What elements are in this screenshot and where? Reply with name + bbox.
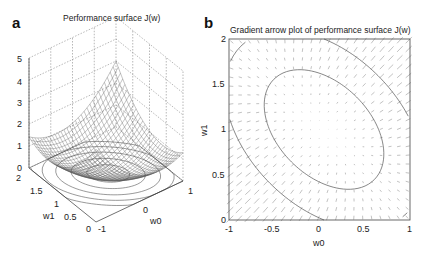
- gradient-arrow: [227, 190, 233, 195]
- gradient-arrow: [354, 120, 356, 121]
- gradient-arrow: [309, 198, 311, 202]
- gradient-arrow: [328, 111, 329, 112]
- gradient-arrow: [264, 164, 268, 167]
- gradient-arrow: [264, 181, 268, 185]
- gradient-arrow: [320, 57, 321, 61]
- gradient-arrow: [284, 94, 285, 95]
- gradient-arrow: [291, 190, 294, 194]
- gradient-arrow: [380, 92, 384, 95]
- gradient-arrow: [345, 207, 346, 211]
- gradient-arrow: [397, 146, 401, 147]
- gradient-arrow: [245, 216, 251, 222]
- gradient-arrow: [308, 207, 310, 211]
- gradient-arrow: [371, 128, 374, 129]
- gradient-arrow: [300, 198, 303, 202]
- gradient-arrow: [328, 164, 329, 166]
- gradient-arrow: [255, 155, 259, 158]
- gradient-arrow: [227, 207, 234, 213]
- gradient-arrow: [363, 173, 364, 174]
- gradient-arrow: [388, 46, 393, 52]
- gradient-arrow: [363, 190, 364, 192]
- gradient-arrow: [388, 92, 392, 95]
- gradient-arrow: [319, 164, 320, 166]
- gradient-arrow: [266, 94, 268, 95]
- gradient-arrow: [276, 49, 277, 52]
- surface-mesh: [29, 61, 183, 181]
- gradient-arrow: [337, 57, 339, 61]
- gradient-arrow: [380, 74, 384, 78]
- mesh-line: [31, 67, 118, 142]
- gradient-arrow: [371, 74, 375, 78]
- gradient-arrow: [290, 207, 293, 212]
- gradient-arrow: [266, 76, 268, 78]
- gradient-arrow: [309, 181, 311, 184]
- gradient-arrow: [310, 147, 311, 148]
- gradient-arrow: [354, 83, 357, 86]
- gradient-arrow: [380, 216, 381, 219]
- gradient-arrow: [236, 190, 242, 195]
- gradient-arrow: [406, 207, 409, 209]
- gradient-arrow: [246, 164, 251, 167]
- gradient-arrow: [276, 40, 277, 44]
- gradient-arrow: [371, 83, 374, 86]
- gradient-arrow: [254, 198, 259, 203]
- gradient-arrow: [292, 147, 294, 149]
- gradient-arrow: [318, 207, 320, 211]
- gradient-arrow: [406, 146, 410, 147]
- gradient-arrow: [256, 121, 259, 122]
- gradient-arrow: [282, 181, 285, 185]
- gradient-arrow: [337, 84, 339, 87]
- gradient-arrow: [388, 207, 390, 210]
- gradient-arrow: [311, 57, 312, 60]
- gradient-arrow: [311, 48, 312, 52]
- floor-contours: [30, 141, 183, 205]
- gradient-arrow: [257, 67, 259, 69]
- gradient-arrow: [300, 164, 302, 166]
- panel-a-label: a: [12, 14, 21, 31]
- gradient-arrow: [227, 216, 234, 223]
- gradient-arrow: [388, 65, 393, 70]
- gradient-arrow: [354, 102, 356, 104]
- gradient-arrow: [263, 198, 268, 203]
- gradient-arrow: [255, 181, 260, 185]
- gradient-arrow: [293, 85, 294, 87]
- gradient-arrow: [337, 48, 339, 52]
- gradient-arrow: [292, 130, 294, 131]
- gradient-arrow: [291, 173, 294, 176]
- gradient-arrow: [291, 155, 293, 157]
- gradient-arrow: [371, 164, 373, 165]
- gradient-arrow: [406, 198, 409, 200]
- gradient-arrow: [230, 68, 234, 69]
- gradient-arrow: [246, 147, 250, 150]
- gradient-arrow: [257, 86, 260, 87]
- gradient-arrow: [246, 138, 250, 140]
- gradient-arrow: [236, 181, 242, 186]
- panel-a: a Performance surface J(w) 0 1 2 3 4 5 2…: [12, 13, 193, 234]
- gradient-arrow: [320, 39, 322, 44]
- gradient-arrow: [274, 130, 277, 131]
- gradient-arrow: [371, 173, 373, 174]
- gradient-arrow: [255, 173, 259, 177]
- gradient-arrow: [275, 67, 276, 69]
- gradient-arrow: [230, 41, 233, 44]
- gradient-arrow: [397, 173, 400, 174]
- gradient-arrow: [245, 181, 250, 185]
- gradient-arrow: [283, 138, 285, 139]
- gradient-arrow: [397, 73, 402, 77]
- gradient-arrow: [264, 155, 268, 158]
- gradient-arrow: [380, 37, 385, 43]
- w1-axis-label: w1: [42, 211, 55, 221]
- gradient-arrow: [388, 119, 392, 121]
- gradient-arrow: [397, 55, 402, 60]
- gradient-arrow: [311, 66, 312, 69]
- y-tick: 1: [221, 124, 226, 134]
- gradient-arrow: [230, 77, 234, 78]
- x-axis-label: w0: [312, 238, 325, 248]
- y-tick: 2: [221, 34, 226, 44]
- gradient-arrow: [272, 198, 276, 203]
- gradient-arrow: [345, 65, 347, 69]
- z-tick: 5: [17, 54, 22, 64]
- gradient-arrow: [336, 207, 337, 211]
- gradient-arrow: [371, 207, 372, 210]
- gradient-arrow: [371, 138, 373, 139]
